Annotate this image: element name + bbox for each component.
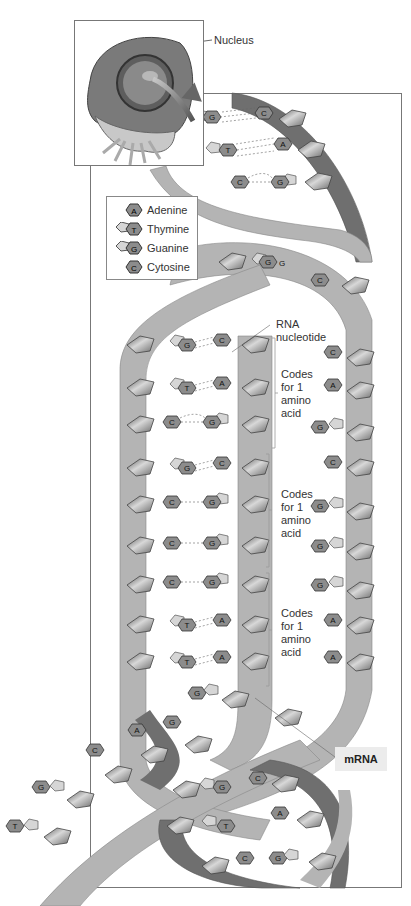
svg-text:G: G [317, 581, 323, 590]
base-legend: A Adenine T Thymine G Guanine C Cytosine [106, 196, 198, 280]
codon-label-2: Codes for 1 amino acid [281, 488, 313, 540]
svg-text:G: G [219, 783, 225, 792]
svg-text:T: T [185, 621, 190, 630]
svg-text:G: G [265, 258, 271, 267]
svg-text:G: G [209, 578, 215, 587]
svg-text:G: G [209, 418, 215, 427]
svg-text:C: C [317, 276, 323, 285]
svg-text:C: C [219, 459, 225, 468]
svg-text:A: A [134, 726, 140, 735]
svg-text:C: C [169, 418, 175, 427]
thymine-icon: T [115, 222, 143, 236]
svg-text:A: A [277, 809, 283, 818]
svg-text:C: C [330, 458, 336, 467]
svg-text:T: T [185, 658, 190, 667]
svg-text:G: G [275, 854, 281, 863]
svg-text:C: C [131, 263, 137, 272]
svg-text:T: T [226, 146, 231, 155]
svg-text:C: C [242, 854, 248, 863]
svg-text:C: C [261, 109, 267, 118]
svg-text:G: G [38, 783, 44, 792]
svg-text:C: C [169, 498, 175, 507]
svg-text:C: C [169, 578, 175, 587]
svg-text:A: A [330, 381, 336, 390]
svg-text:C: C [169, 539, 175, 548]
rna-nucleotide-label: RNA nucleotide [276, 318, 326, 344]
svg-text:T: T [132, 225, 137, 234]
svg-text:G: G [131, 244, 137, 253]
svg-text:G: G [169, 718, 175, 727]
svg-text:C: C [330, 348, 336, 357]
codon-label-3: Codes for 1 amino acid [281, 607, 313, 659]
svg-text:A: A [330, 616, 336, 625]
nucleus-label: Nucleus [214, 34, 254, 47]
svg-text:G: G [209, 113, 215, 122]
svg-text:A: A [131, 206, 137, 215]
svg-text:C: C [237, 178, 243, 187]
svg-text:G: G [209, 539, 215, 548]
svg-text:G: G [317, 502, 323, 511]
svg-text:A: A [219, 379, 225, 388]
svg-text:T: T [224, 822, 229, 831]
svg-text:C: C [219, 336, 225, 345]
svg-text:G: G [194, 689, 200, 698]
svg-text:C: C [92, 746, 98, 755]
svg-text:G: G [317, 542, 323, 551]
svg-text:T: T [185, 384, 190, 393]
svg-text:A: A [219, 653, 225, 662]
svg-text:G: G [184, 464, 190, 473]
legend-item-guanine: G Guanine [115, 238, 197, 257]
guanine-icon: G [115, 241, 143, 255]
legend-item-thymine: T Thymine [115, 219, 197, 238]
svg-text:C: C [255, 774, 261, 783]
legend-item-cytosine: C Cytosine [115, 257, 197, 276]
legend-item-adenine: A Adenine [115, 200, 197, 219]
svg-text:T: T [13, 822, 18, 831]
mrna-label: mRNA [335, 747, 387, 771]
svg-text:G: G [317, 423, 323, 432]
adenine-icon: A [115, 203, 143, 217]
svg-text:G: G [277, 178, 283, 187]
svg-text:A: A [219, 616, 225, 625]
svg-text:A: A [280, 140, 286, 149]
svg-text:G: G [209, 498, 215, 507]
svg-text:G: G [184, 341, 190, 350]
codon-label-1: Codes for 1 amino acid [281, 368, 313, 420]
svg-text:A: A [330, 653, 336, 662]
cytosine-icon: C [115, 260, 143, 274]
